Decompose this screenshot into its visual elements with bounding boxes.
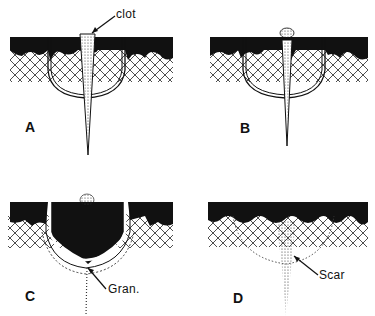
panel-b-drawing [188,0,375,158]
panel-label-d: D [233,290,243,306]
annotation-clot: clot [116,7,136,21]
panel-label-b: B [240,120,250,136]
panel-label-c: C [25,288,35,304]
annotation-scar: Scar [319,268,345,282]
panel-d: Scar D [188,158,375,316]
panel-d-drawing [188,158,375,316]
annotation-gran: Gran. [108,282,140,296]
panel-b: B [188,0,375,158]
panel-c: Gran. C [0,158,187,316]
panel-label-a: A [25,119,35,135]
panel-a: clot A [0,0,187,158]
